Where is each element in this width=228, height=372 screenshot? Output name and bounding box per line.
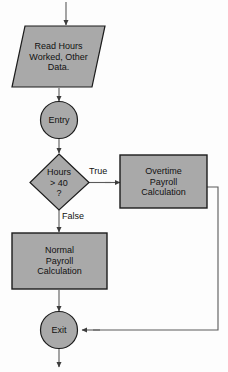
shape-normal-rect[interactable] [12,233,107,289]
shape-entry-circle[interactable] [41,102,78,139]
shape-decision-diamond[interactable] [30,154,89,210]
shape-read-input-parallelogram[interactable] [12,26,105,87]
edge-label-true: True [89,166,107,176]
flowchart-graphics [0,0,228,372]
shape-exit-circle[interactable] [41,312,78,349]
flowchart-canvas: Read Hours Worked, Other Data. Entry Hou… [0,0,228,372]
shape-overtime-rect[interactable] [120,155,207,208]
edge-label-false: False [62,211,84,221]
